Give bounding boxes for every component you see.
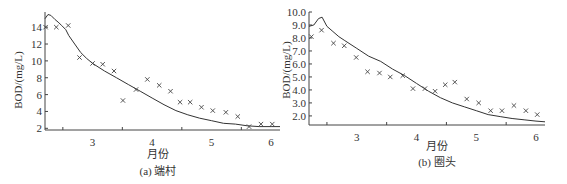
chart-a-observed-marker xyxy=(178,100,182,104)
chart-a-observed-marker xyxy=(270,122,274,126)
chart-b-observed-marker xyxy=(443,83,447,87)
chart-a-observed-marker xyxy=(224,110,228,114)
chart-a-x-tick-label: 3 xyxy=(90,136,96,148)
chart-a-observed-marker xyxy=(259,122,263,126)
chart-b-y-tick-label: 5.0 xyxy=(292,71,306,83)
chart-a-observed-marker xyxy=(247,124,251,128)
chart-a-x-tick-label: 5 xyxy=(209,136,215,148)
chart-b-y-tick-label: 10.0 xyxy=(287,6,307,18)
chart-a-observed-marker xyxy=(211,108,215,112)
chart-b-observed-marker xyxy=(512,103,516,107)
chart-a-observed-marker xyxy=(157,83,161,87)
figure: 24681012143456 BOD/(mg/L) 月份 (a) 端村 2.03… xyxy=(0,0,567,184)
chart-b-observed-marker xyxy=(388,75,392,79)
chart-b-simulated-curve xyxy=(309,17,545,122)
chart-a-y-tick-label: 8 xyxy=(37,72,43,84)
chart-a-observed-marker xyxy=(112,69,116,73)
chart-b-observed-marker xyxy=(488,109,492,113)
chart-a-y-tick-label: 12 xyxy=(31,38,42,50)
chart-b-observed-marker xyxy=(411,86,415,90)
chart-b-y-tick-label: 2.0 xyxy=(292,110,306,122)
chart-b-observed-marker xyxy=(500,109,504,113)
chart-b-observed-marker xyxy=(423,86,427,90)
chart-a-observed-marker xyxy=(236,114,240,118)
chart-b-observed-marker xyxy=(476,101,480,105)
chart-a-observed-marker xyxy=(188,100,192,104)
chart-b-x-axis-title: 月份 xyxy=(426,140,448,152)
chart-b-observed-marker xyxy=(465,97,469,101)
chart-b-y-tick-label: 9.0 xyxy=(292,19,306,31)
chart-b-observed-marker xyxy=(354,55,358,59)
chart-a-y-tick-label: 2 xyxy=(37,122,43,134)
chart-a-observed-marker xyxy=(121,98,125,102)
chart-a-caption: (a) 端村 xyxy=(140,164,177,178)
chart-a-duancun: 24681012143456 BOD/(mg/L) 月份 (a) 端村 xyxy=(12,12,280,178)
chart-a-observed-marker xyxy=(168,89,172,93)
chart-b-observed-marker xyxy=(535,112,539,116)
chart-b-x-tick-label: 4 xyxy=(414,131,420,143)
chart-a-observed-marker xyxy=(77,55,81,59)
chart-b-observed-marker xyxy=(319,28,323,32)
chart-a-y-tick-label: 4 xyxy=(37,105,43,117)
chart-a-observed-marker xyxy=(145,77,149,81)
chart-a-x-tick-label: 6 xyxy=(268,136,274,148)
chart-b-y-tick-label: 8.0 xyxy=(292,32,306,44)
chart-b-observed-marker xyxy=(331,41,335,45)
chart-a-y-tick-label: 14 xyxy=(31,21,43,33)
chart-a-y-tick-label: 6 xyxy=(37,89,43,101)
chart-a-y-axis-title: BOD/(mg/L) xyxy=(12,51,25,109)
chart-b-y-tick-label: 7.0 xyxy=(292,45,306,57)
chart-a-observed-marker xyxy=(101,62,105,66)
chart-b-observed-marker xyxy=(365,70,369,74)
chart-a-observed-marker xyxy=(54,25,58,29)
chart-b-plot-area: 2.03.04.05.06.07.08.09.010.03456 xyxy=(287,6,545,143)
chart-b-y-tick-label: 3.0 xyxy=(292,97,306,109)
chart-a-x-axis-title: 月份 xyxy=(147,148,169,160)
chart-b-observed-marker xyxy=(342,44,346,48)
chart-b-caption: (b) 圈头 xyxy=(418,156,456,169)
chart-b-observed-marker xyxy=(453,80,457,84)
chart-b-x-tick-label: 6 xyxy=(533,131,539,143)
chart-b-x-tick-label: 3 xyxy=(354,131,360,143)
chart-a-simulated-curve xyxy=(45,15,280,127)
chart-b-y-tick-label: 6.0 xyxy=(292,58,306,70)
chart-b-observed-marker xyxy=(377,71,381,75)
chart-a-x-tick-label: 4 xyxy=(149,136,155,148)
chart-b-observed-marker xyxy=(433,89,437,93)
chart-a-observed-marker xyxy=(90,61,94,65)
chart-a-observed-marker xyxy=(199,105,203,109)
chart-a-y-tick-label: 10 xyxy=(31,55,43,67)
chart-b-observed-marker xyxy=(524,109,528,113)
chart-b-quantou: 2.03.04.05.06.07.08.09.010.03456 BOD/(mg… xyxy=(280,6,545,169)
chart-a-observed-marker xyxy=(66,23,70,27)
chart-a-plot-area: 24681012143456 xyxy=(31,12,280,148)
chart-b-y-axis-title: BOD/(mg/L) xyxy=(280,41,293,99)
chart-b-y-tick-label: 4.0 xyxy=(292,84,306,96)
chart-b-x-tick-label: 5 xyxy=(474,131,480,143)
